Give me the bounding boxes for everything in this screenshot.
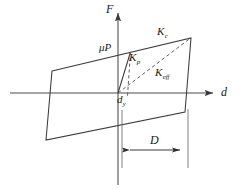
label-characteristic-strength: μP bbox=[99, 42, 111, 53]
label-keff-stiffness: Keff bbox=[155, 67, 169, 78]
figure-canvas: F d μP Kc Kp Keff dy D bbox=[0, 0, 245, 189]
label-yield-displacement: dy bbox=[117, 94, 126, 105]
axis-label-displacement: d bbox=[221, 86, 227, 98]
axis-label-force: F bbox=[106, 3, 113, 15]
label-kp-stiffness: Kp bbox=[129, 52, 140, 63]
label-design-displacement: D bbox=[150, 134, 159, 146]
label-kc-stiffness: Kc bbox=[157, 26, 167, 37]
